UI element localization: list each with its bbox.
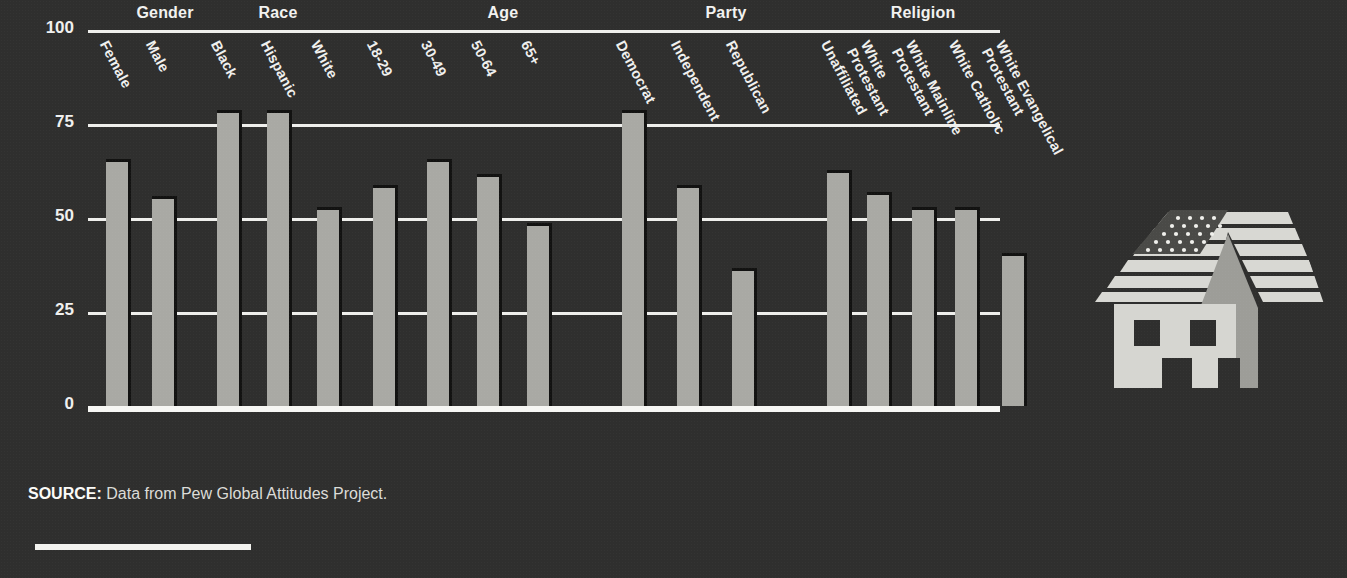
ytick-label-25: 25 bbox=[55, 300, 74, 320]
xtick-label-65-: 65+ bbox=[518, 38, 544, 68]
group-header-religion: Religion bbox=[891, 4, 956, 22]
bar-hispanic bbox=[267, 113, 289, 406]
bar-white bbox=[317, 210, 339, 406]
bar-democrat bbox=[622, 113, 644, 406]
bottom-rule bbox=[35, 544, 251, 550]
bar-independent bbox=[677, 188, 699, 406]
xtick-label-black: Black bbox=[208, 38, 241, 81]
group-header-party: Party bbox=[705, 4, 746, 22]
ytick-label-75: 75 bbox=[55, 112, 74, 132]
bar-white-catholic bbox=[955, 210, 977, 406]
bar-65- bbox=[527, 226, 549, 406]
xtick-label-female: Female bbox=[97, 38, 135, 91]
bar-black bbox=[217, 113, 239, 406]
chart-figure: Gender Race Age Party Religion 100 75 50… bbox=[0, 0, 1347, 578]
plot-area: 100 75 50 25 0 FemaleMaleBlackHispanicWh… bbox=[88, 30, 1000, 406]
ytick-label-100: 100 bbox=[46, 18, 74, 38]
xtick-label-hispanic: Hispanic bbox=[258, 38, 301, 100]
bar-republican bbox=[732, 271, 754, 406]
gridline-100: 100 bbox=[88, 30, 1000, 33]
xtick-label-independent: Independent bbox=[668, 38, 724, 124]
flag-roof-house-icon bbox=[1078, 192, 1328, 388]
xtick-label-white: White bbox=[308, 38, 341, 81]
bar-female bbox=[106, 162, 128, 406]
source-label: SOURCE: bbox=[28, 485, 102, 502]
bar-white-mainline-protestant bbox=[912, 210, 934, 406]
xtick-label-30-49: 30-49 bbox=[418, 38, 450, 79]
bar-50-64 bbox=[477, 177, 499, 406]
bar-30-49 bbox=[427, 162, 449, 406]
bar-18-29 bbox=[373, 188, 395, 406]
xtick-label-republican: Republican bbox=[723, 38, 775, 116]
xtick-label-male: Male bbox=[143, 38, 173, 75]
bar-white-evangelical-protestant bbox=[1002, 256, 1024, 406]
xtick-label-18-29: 18-29 bbox=[364, 38, 396, 79]
bar-unaffiliated bbox=[827, 173, 849, 406]
bar-male bbox=[152, 199, 174, 406]
source-note: SOURCE: Data from Pew Global Attitudes P… bbox=[28, 485, 387, 503]
group-header-race: Race bbox=[258, 4, 297, 22]
group-header-age: Age bbox=[488, 4, 519, 22]
bar-white-protestant bbox=[867, 195, 889, 406]
xtick-label-democrat: Democrat bbox=[613, 38, 659, 106]
group-header-gender: Gender bbox=[136, 4, 193, 22]
ytick-label-50: 50 bbox=[55, 206, 74, 226]
source-text: Data from Pew Global Attitudes Project. bbox=[102, 485, 387, 502]
xtick-label-50-64: 50-64 bbox=[468, 38, 500, 79]
gridline-0: 0 bbox=[88, 406, 1000, 412]
ytick-label-0: 0 bbox=[65, 394, 74, 414]
